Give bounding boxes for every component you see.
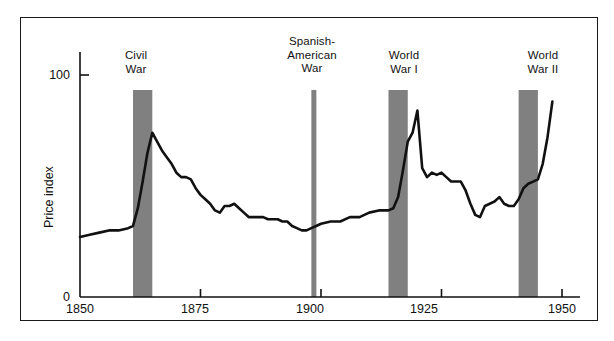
chart-figure: Price index 100 0 1850 1875 1900 1925 19… (0, 0, 614, 341)
x-tick-label-1875: 1875 (171, 302, 219, 316)
war-shaded-bands (133, 90, 538, 297)
war-band-spanish-american-war (311, 90, 316, 297)
y-axis-title: Price index (42, 166, 56, 228)
band-label-civil-war: Civil War (96, 49, 176, 76)
chart-axes (80, 52, 580, 297)
band-label-world-war-i: World War I (364, 49, 444, 76)
x-tick-label-1900: 1900 (286, 302, 334, 316)
war-band-civil-war (133, 90, 152, 297)
x-tick-label-1850: 1850 (56, 302, 104, 316)
x-tick-label-1950: 1950 (538, 302, 586, 316)
band-label-spanish-american-war: Spanish- American War (266, 35, 358, 76)
band-label-world-war-ii: World War II (503, 49, 583, 76)
x-tick-label-1925: 1925 (400, 302, 448, 316)
y-tick-label-100: 100 (40, 68, 70, 82)
